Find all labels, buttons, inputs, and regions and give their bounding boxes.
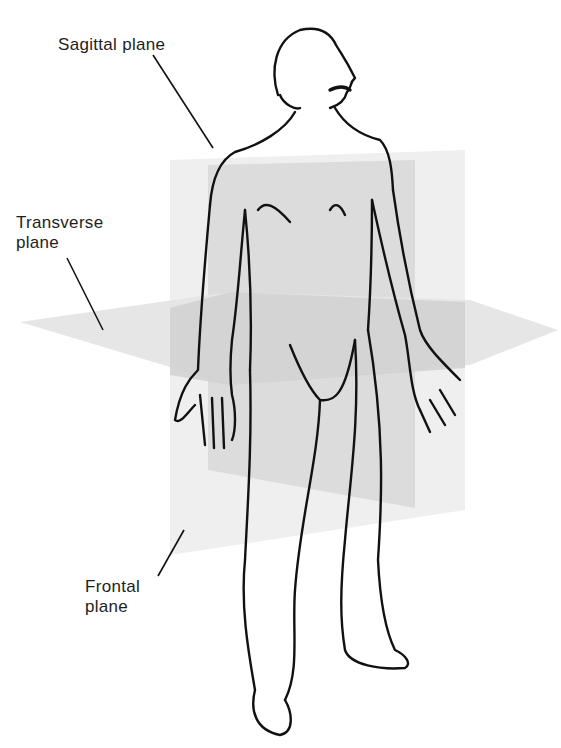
sagittal-leader-line: [153, 55, 213, 148]
transverse-plane: [20, 292, 558, 385]
anatomical-planes-diagram: Sagittal plane Transverse plane Frontal …: [0, 0, 561, 748]
transverse-plane-label: Transverse plane: [16, 213, 126, 253]
frontal-label-line1: Frontal: [85, 577, 195, 597]
frontal-label-line2: plane: [85, 597, 195, 617]
frontal-plane-label: Frontal plane: [85, 577, 195, 617]
transverse-label-line1: Transverse: [16, 213, 126, 233]
transverse-label-line2: plane: [16, 233, 126, 253]
body-planes-illustration: [0, 0, 561, 748]
sagittal-plane-label: Sagittal plane: [58, 35, 165, 55]
